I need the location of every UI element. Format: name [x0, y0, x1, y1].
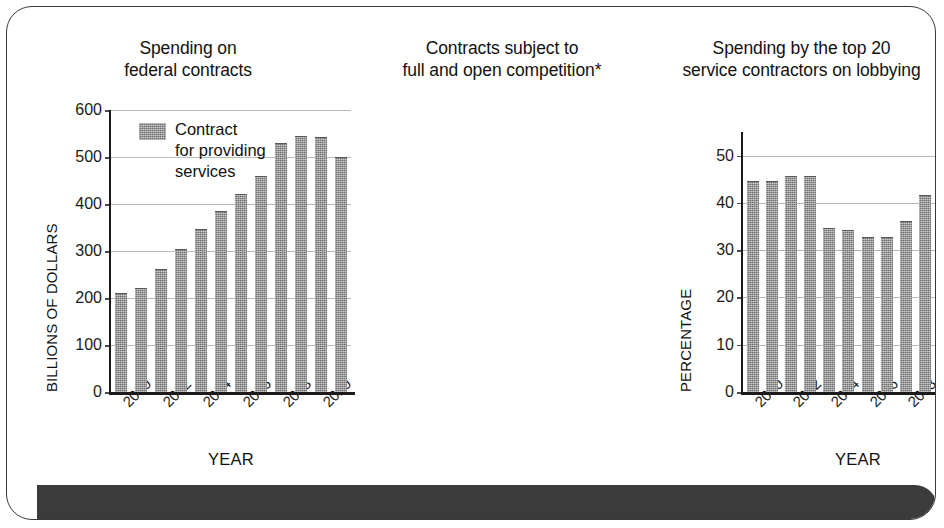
y-tick-label: 200 [75, 289, 102, 307]
chart-title-3-line1: Spending by the top 20 [659, 37, 936, 59]
bar [255, 176, 267, 392]
bar [115, 293, 127, 392]
bar [135, 288, 147, 392]
chart-title-1-line1: Spending on [23, 37, 353, 59]
bar [235, 194, 247, 392]
footer-band [37, 485, 936, 520]
legend-label: Contract for providing services [175, 119, 266, 182]
chart-title-1: Spending on federal contracts [23, 37, 353, 81]
bar [335, 157, 347, 392]
bar [195, 229, 207, 392]
bar [275, 143, 287, 392]
chart-title-2-line2: full and open competition* [347, 59, 657, 81]
chart-panel-lobbying: Spending by the top 20 service contracto… [659, 7, 936, 477]
bar [175, 249, 187, 392]
y-tick-label: 500 [75, 148, 102, 166]
chart-title-1-line2: federal contracts [23, 59, 353, 81]
y-tick-label: 600 [75, 101, 102, 119]
y-tick-label: 300 [75, 242, 102, 260]
bar [155, 269, 167, 392]
legend-swatch-icon [139, 123, 166, 140]
legend-label-line3: services [175, 161, 266, 182]
figure-frame: Spending on federal contracts 0100200300… [6, 6, 936, 520]
y-tick-label: 0 [93, 383, 102, 401]
gridline [111, 110, 351, 111]
x-axis-title: YEAR [111, 450, 351, 469]
legend-label-line1: Contract [175, 119, 266, 140]
y-axis-title: BILLIONS OF DOLLARS [43, 223, 60, 392]
chart-title-2-line1: Contracts subject to [347, 37, 657, 59]
chart-panel-open-competition: Contracts subject to full and open compe… [347, 7, 657, 477]
y-tick-label: 400 [75, 195, 102, 213]
bar [295, 136, 307, 392]
chart-panel-federal-contracts: Spending on federal contracts 0100200300… [23, 7, 353, 477]
bar [215, 211, 227, 392]
y-tick-label: 100 [75, 336, 102, 354]
chart-title-3: Spending by the top 20 service contracto… [659, 37, 936, 81]
legend-label-line2: for providing [175, 140, 266, 161]
chart-title-2: Contracts subject to full and open compe… [347, 37, 657, 81]
y-axis-line [109, 110, 112, 395]
chart-title-3-line2: service contractors on lobbying [659, 59, 936, 81]
bar [315, 137, 327, 392]
legend-contract-services: Contract for providing services [139, 119, 266, 182]
